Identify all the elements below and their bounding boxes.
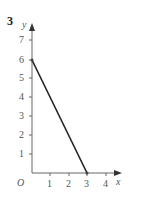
chart: 3 y x O 1 2 3 4 5 6 7 1 2 3 4 <box>0 0 145 202</box>
question-number: 3 <box>7 14 13 28</box>
y-axis-arrow-icon <box>29 23 35 31</box>
svg-text:2: 2 <box>66 178 71 189</box>
svg-text:3: 3 <box>84 178 89 189</box>
svg-text:4: 4 <box>19 91 24 102</box>
svg-text:4: 4 <box>103 178 108 189</box>
svg-text:7: 7 <box>19 34 24 45</box>
x-axis-label: x <box>115 176 121 187</box>
origin-label: O <box>17 177 24 188</box>
point-x-intercept <box>86 172 89 175</box>
svg-text:1: 1 <box>47 178 52 189</box>
y-axis-label: y <box>21 19 27 30</box>
svg-text:2: 2 <box>19 129 24 140</box>
svg-text:1: 1 <box>19 148 24 159</box>
svg-text:5: 5 <box>19 72 24 83</box>
data-line <box>32 60 87 173</box>
point-y-intercept <box>31 59 34 62</box>
svg-text:6: 6 <box>19 54 24 65</box>
svg-text:3: 3 <box>19 110 24 121</box>
x-ticks: 1 2 3 4 <box>47 173 108 189</box>
y-ticks: 1 2 3 4 5 6 7 <box>19 34 32 159</box>
